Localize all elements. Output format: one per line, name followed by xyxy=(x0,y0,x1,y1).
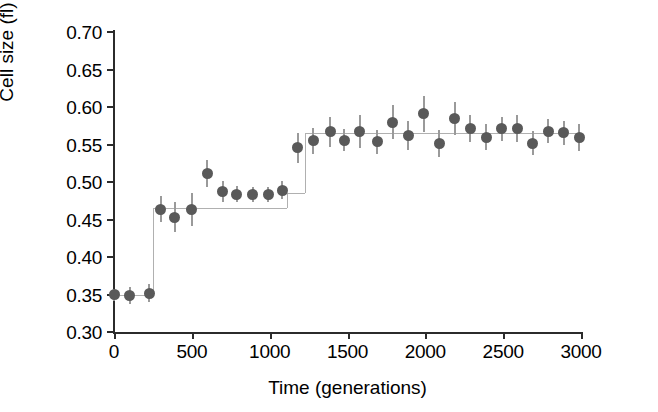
x-tick-label: 1500 xyxy=(327,342,368,361)
y-tick-label: 0.65 xyxy=(66,60,102,79)
data-point xyxy=(231,189,242,200)
x-tick-mark xyxy=(425,332,427,339)
x-tick-mark xyxy=(581,332,583,339)
data-point xyxy=(277,185,288,196)
step-riser xyxy=(287,193,288,209)
data-point xyxy=(325,126,336,137)
x-tick-mark xyxy=(503,332,505,339)
data-point xyxy=(465,123,476,134)
data-point xyxy=(449,113,460,124)
x-tick-label: 2000 xyxy=(405,342,446,361)
y-tick-label: 0.40 xyxy=(66,248,102,267)
data-point xyxy=(387,117,398,128)
x-tick-mark xyxy=(114,332,116,339)
step-segment xyxy=(287,193,306,194)
y-tick-label: 0.70 xyxy=(66,23,102,42)
y-tick-mark xyxy=(107,219,114,221)
y-tick-mark xyxy=(107,31,114,33)
y-tick-mark xyxy=(107,256,114,258)
data-point xyxy=(186,204,197,215)
data-point xyxy=(308,135,319,146)
data-point xyxy=(543,126,554,137)
step-riser xyxy=(305,133,306,193)
data-point xyxy=(339,135,350,146)
y-tick-label: 0.30 xyxy=(66,323,102,342)
y-tick-mark xyxy=(107,181,114,183)
data-point xyxy=(217,186,228,197)
data-point xyxy=(247,189,258,200)
x-tick-label: 3000 xyxy=(560,342,601,361)
data-point xyxy=(109,289,120,300)
data-point xyxy=(155,204,166,215)
data-point xyxy=(124,290,135,301)
y-tick-label: 0.35 xyxy=(66,285,102,304)
x-tick-mark xyxy=(348,332,350,339)
data-point xyxy=(481,132,492,143)
x-axis-title: Time (generations) xyxy=(114,377,581,399)
plot-area xyxy=(114,32,581,332)
data-point xyxy=(527,138,538,149)
data-point xyxy=(144,288,155,299)
data-point xyxy=(574,132,585,143)
data-point xyxy=(263,189,274,200)
data-point xyxy=(202,168,213,179)
step-riser xyxy=(153,208,154,294)
x-tick-mark xyxy=(270,332,272,339)
x-tick-label: 1000 xyxy=(249,342,290,361)
x-tick-mark xyxy=(192,332,194,339)
data-point xyxy=(512,123,523,134)
y-tick-label: 0.55 xyxy=(66,135,102,154)
x-tick-label: 0 xyxy=(109,342,119,361)
data-point xyxy=(354,126,365,137)
data-point xyxy=(558,127,569,138)
y-tick-mark xyxy=(107,69,114,71)
data-point xyxy=(372,136,383,147)
y-axis-title: Cell size (fl) xyxy=(0,0,18,172)
data-point xyxy=(169,212,180,223)
data-point xyxy=(434,138,445,149)
y-tick-mark xyxy=(107,144,114,146)
chart-figure: 0.300.350.400.450.500.550.600.650.70 050… xyxy=(0,0,658,412)
data-point xyxy=(418,108,429,119)
y-tick-mark xyxy=(107,106,114,108)
x-tick-label: 2500 xyxy=(483,342,524,361)
data-point xyxy=(292,142,303,153)
y-tick-label: 0.45 xyxy=(66,210,102,229)
y-tick-label: 0.60 xyxy=(66,98,102,117)
x-tick-label: 500 xyxy=(176,342,207,361)
step-segment xyxy=(305,133,581,134)
y-tick-mark xyxy=(107,331,114,333)
data-point xyxy=(403,130,414,141)
y-tick-label: 0.50 xyxy=(66,173,102,192)
